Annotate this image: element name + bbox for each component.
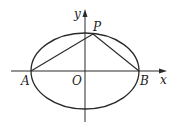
y-axis-arrow-icon bbox=[83, 9, 88, 17]
point-p-label: P bbox=[92, 20, 102, 34]
y-axis-label: y bbox=[73, 7, 81, 21]
y-axis bbox=[83, 9, 88, 122]
x-axis-label: x bbox=[160, 73, 167, 87]
point-b-label: B bbox=[139, 74, 149, 88]
origin-label: O bbox=[72, 74, 82, 88]
segment-pa bbox=[31, 34, 93, 71]
point-a-label: A bbox=[20, 74, 30, 88]
ellipse-diagram: y x O A B P bbox=[0, 0, 178, 130]
